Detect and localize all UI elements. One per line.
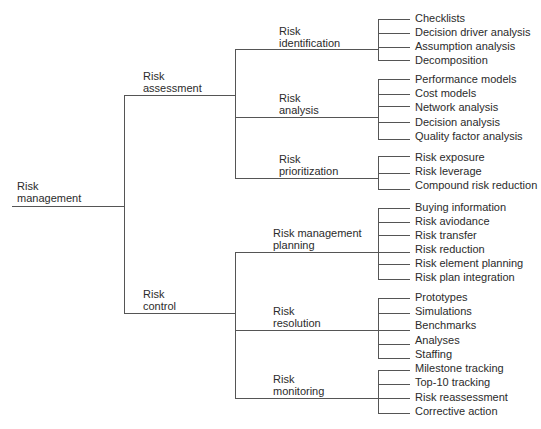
leaf-risk-reduction: Risk reduction xyxy=(415,243,485,256)
node-label-line1: Risk xyxy=(273,305,321,317)
risk-management-tree-diagram: Risk management Risk assessment Risk con… xyxy=(0,0,541,429)
leaf-top-10-tracking: Top-10 tracking xyxy=(415,376,490,389)
leaf-benchmarks: Benchmarks xyxy=(415,319,476,332)
leaf-risk-leverage: Risk leverage xyxy=(415,165,482,178)
node-label-line2: identification xyxy=(279,37,340,49)
node-risk-control: Risk control xyxy=(143,288,176,312)
node-label-line1: Risk xyxy=(17,180,81,192)
node-label-line2: resolution xyxy=(273,317,321,329)
node-risk-identification: Risk identification xyxy=(279,25,340,49)
leaf-risk-aviodance: Risk aviodance xyxy=(415,215,490,228)
leaf-compound-risk-reduction: Compound risk reduction xyxy=(415,179,537,192)
leaf-risk-plan-integration: Risk plan integration xyxy=(415,271,515,284)
leaf-decision-driver-analysis: Decision driver analysis xyxy=(415,26,531,39)
leaf-assumption-analysis: Assumption analysis xyxy=(415,40,515,53)
node-risk-management-planning: Risk management planning xyxy=(273,227,362,251)
node-risk-prioritization: Risk prioritization xyxy=(279,153,338,177)
node-label-line1: Risk xyxy=(279,153,338,165)
leaf-risk-exposure: Risk exposure xyxy=(415,151,485,164)
node-risk-management: Risk management xyxy=(17,180,81,204)
node-label-line2: analysis xyxy=(279,104,319,116)
leaf-corrective-action: Corrective action xyxy=(415,405,498,418)
node-label-line1: Risk xyxy=(273,373,324,385)
leaf-decision-analysis: Decision analysis xyxy=(415,116,500,129)
leaf-risk-transfer: Risk transfer xyxy=(415,229,477,242)
node-label-line2: assessment xyxy=(143,82,202,94)
node-label-line2: management xyxy=(17,192,81,204)
node-label-line2: prioritization xyxy=(279,165,338,177)
leaf-milestone-tracking: Milestone tracking xyxy=(415,362,504,375)
node-label-line2: monitoring xyxy=(273,385,324,397)
node-risk-analysis: Risk analysis xyxy=(279,92,319,116)
leaf-quality-factor-analysis: Quality factor analysis xyxy=(415,130,523,143)
leaf-risk-reassessment: Risk reassessment xyxy=(415,391,508,404)
node-risk-assessment: Risk assessment xyxy=(143,70,202,94)
node-risk-monitoring: Risk monitoring xyxy=(273,373,324,397)
node-label-line2: control xyxy=(143,300,176,312)
node-label-line1: Risk xyxy=(279,92,319,104)
leaf-prototypes: Prototypes xyxy=(415,291,468,304)
node-label-line2: planning xyxy=(273,239,362,251)
leaf-cost-models: Cost models xyxy=(415,87,476,100)
leaf-performance-models: Performance models xyxy=(415,73,517,86)
node-label-line1: Risk xyxy=(143,288,176,300)
leaf-buying-information: Buying information xyxy=(415,201,506,214)
node-label-line1: Risk xyxy=(279,25,340,37)
leaf-network-analysis: Network analysis xyxy=(415,101,498,114)
leaf-analyses: Analyses xyxy=(415,334,460,347)
leaf-staffing: Staffing xyxy=(415,348,452,361)
leaf-simulations: Simulations xyxy=(415,305,472,318)
node-label-line1: Risk management xyxy=(273,227,362,239)
leaf-risk-element-planning: Risk element planning xyxy=(415,257,523,270)
node-risk-resolution: Risk resolution xyxy=(273,305,321,329)
leaf-decomposition: Decomposition xyxy=(415,54,488,67)
node-label-line1: Risk xyxy=(143,70,202,82)
leaf-checklists: Checklists xyxy=(415,12,465,25)
